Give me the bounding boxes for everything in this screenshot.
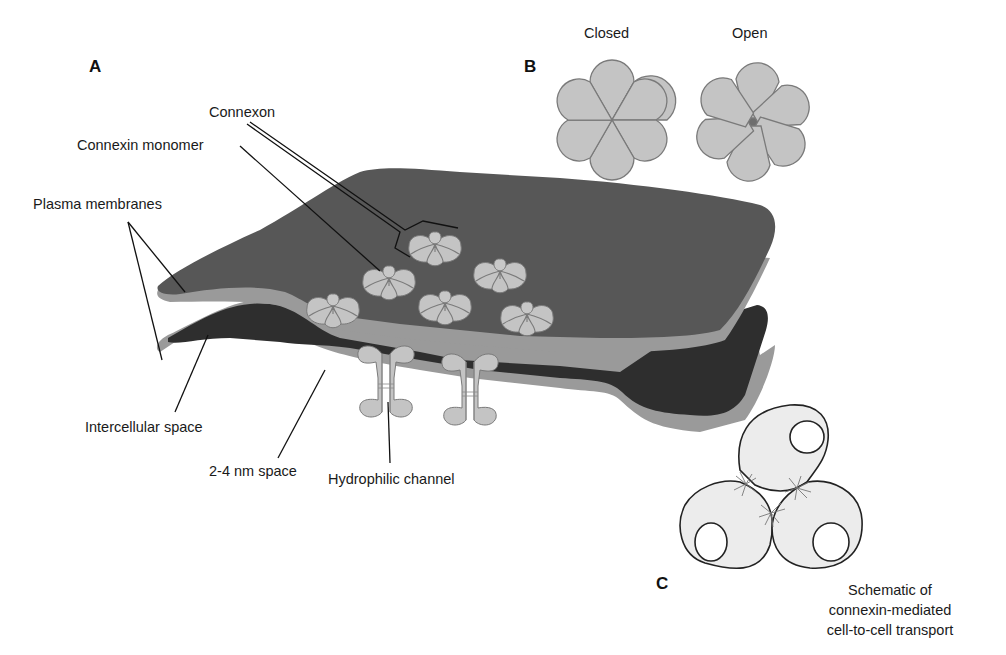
intercellular-space-label: Intercellular space	[85, 420, 203, 435]
caption-line: Schematic of	[800, 580, 980, 600]
connexin-gap-junction-figure: A B C Closed Open Connexon Connexin mono…	[0, 0, 1006, 655]
caption-line: cell-to-cell transport	[800, 620, 980, 640]
caption-line: connexin-mediated	[800, 600, 980, 620]
open-state-label: Open	[732, 26, 767, 41]
gap-space-label: 2-4 nm space	[209, 464, 297, 479]
connexon-open-diagram	[689, 63, 817, 181]
closed-state-label: Closed	[584, 26, 629, 41]
plasma-membrane-diagram	[157, 168, 775, 432]
panel-letter-b: B	[524, 58, 536, 75]
figure-artwork	[0, 0, 1006, 655]
plasma-membranes-label: Plasma membranes	[33, 197, 162, 212]
panel-letter-a: A	[89, 58, 101, 75]
connexon-label: Connexon	[209, 105, 275, 120]
connexon-closed-diagram	[549, 60, 676, 180]
connexin-monomer-label: Connexin monomer	[77, 138, 204, 153]
hydrophilic-channel-label: Hydrophilic channel	[328, 472, 455, 487]
panel-c-caption: Schematic of connexin-mediated cell-to-c…	[800, 580, 980, 640]
panel-letter-c: C	[656, 575, 668, 592]
